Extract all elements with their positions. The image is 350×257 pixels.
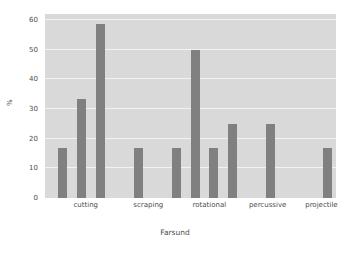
bar xyxy=(266,124,275,198)
y-tick-label: 0 xyxy=(34,194,38,202)
y-tick-label: 50 xyxy=(29,46,38,54)
y-axis-title: % xyxy=(6,99,14,106)
x-tick-label: cutting xyxy=(73,201,98,209)
gridline xyxy=(45,19,336,20)
bar xyxy=(172,148,181,198)
bar xyxy=(134,148,143,198)
bar-chart: 0102030405060 % cuttingscrapingrotationa… xyxy=(0,0,350,257)
bar xyxy=(58,148,67,198)
bar xyxy=(209,148,218,198)
y-tick-label: 20 xyxy=(29,135,38,143)
x-axis: cuttingscrapingrotationalpercussiveproje… xyxy=(45,199,336,215)
x-tick-label: rotational xyxy=(193,201,227,209)
x-tick-label: projectile xyxy=(305,201,338,209)
y-tick-label: 60 xyxy=(29,16,38,24)
bar xyxy=(228,124,237,198)
y-tick-label: 40 xyxy=(29,75,38,83)
y-tick-label: 30 xyxy=(29,105,38,113)
plot-area xyxy=(45,14,336,198)
bar xyxy=(77,99,86,198)
y-axis: 0102030405060 xyxy=(0,0,45,212)
bar xyxy=(96,24,105,198)
x-axis-title: Farsund xyxy=(0,228,350,237)
x-tick-label: percussive xyxy=(249,201,286,209)
bar xyxy=(191,50,200,198)
y-tick-label: 10 xyxy=(29,164,38,172)
bar xyxy=(323,148,332,198)
x-tick-label: scraping xyxy=(133,201,163,209)
